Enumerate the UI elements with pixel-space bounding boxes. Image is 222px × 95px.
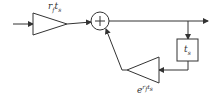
input-gain-label: rfts [48,2,61,13]
delay-to-feedback-arrow [159,61,188,70]
gain-to-summer-arrow [67,22,91,24]
input-gain-triangle [33,13,67,35]
feedback-gain-triangle [127,57,159,83]
feedback-to-summer-arrow [106,29,127,70]
delay-label: ts [184,45,191,56]
feedback-gain-label: erfts [137,84,153,95]
